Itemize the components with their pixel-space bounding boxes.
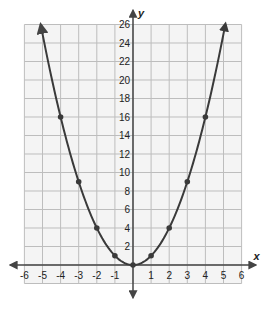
x-tick-label: 1 [148, 270, 154, 281]
x-tick-label: -3 [74, 270, 83, 281]
x-tick-label: 4 [203, 270, 209, 281]
y-tick-label: 10 [119, 167, 131, 178]
data-point [203, 114, 209, 120]
data-point [76, 179, 82, 185]
y-tick-label: 20 [119, 75, 131, 86]
x-tick-label: 2 [166, 270, 172, 281]
y-tick-label: 4 [124, 223, 130, 234]
x-tick-label: 5 [221, 270, 227, 281]
x-tick-label: -5 [38, 270, 47, 281]
y-tick-label: 24 [119, 38, 131, 49]
data-point [112, 253, 118, 259]
x-tick-label: 6 [239, 270, 245, 281]
x-tick-label: 3 [185, 270, 191, 281]
y-tick-label: 6 [124, 204, 130, 215]
x-tick-label: -6 [20, 270, 29, 281]
y-tick-label: 22 [119, 56, 131, 67]
x-tick-label: -1 [110, 270, 119, 281]
y-tick-label: 12 [119, 149, 131, 160]
x-tick-label: -4 [56, 270, 65, 281]
y-tick-label: 26 [119, 19, 131, 30]
data-point [148, 253, 154, 259]
y-tick-label: 18 [119, 93, 131, 104]
y-tick-label: 16 [119, 112, 131, 123]
data-point [166, 225, 172, 231]
y-tick-label: 8 [124, 186, 130, 197]
data-point [94, 225, 100, 231]
data-point [58, 114, 64, 120]
x-axis-label: x [253, 250, 261, 262]
y-tick-label: 14 [119, 130, 131, 141]
data-point [185, 179, 191, 185]
y-tick-label: 2 [124, 241, 130, 252]
y-axis-label: y [137, 7, 145, 19]
x-tick-label: -2 [92, 270, 101, 281]
data-point [130, 262, 136, 268]
parabola-chart: -6-5-4-3-2-11234562468101214161820222426… [0, 0, 267, 313]
